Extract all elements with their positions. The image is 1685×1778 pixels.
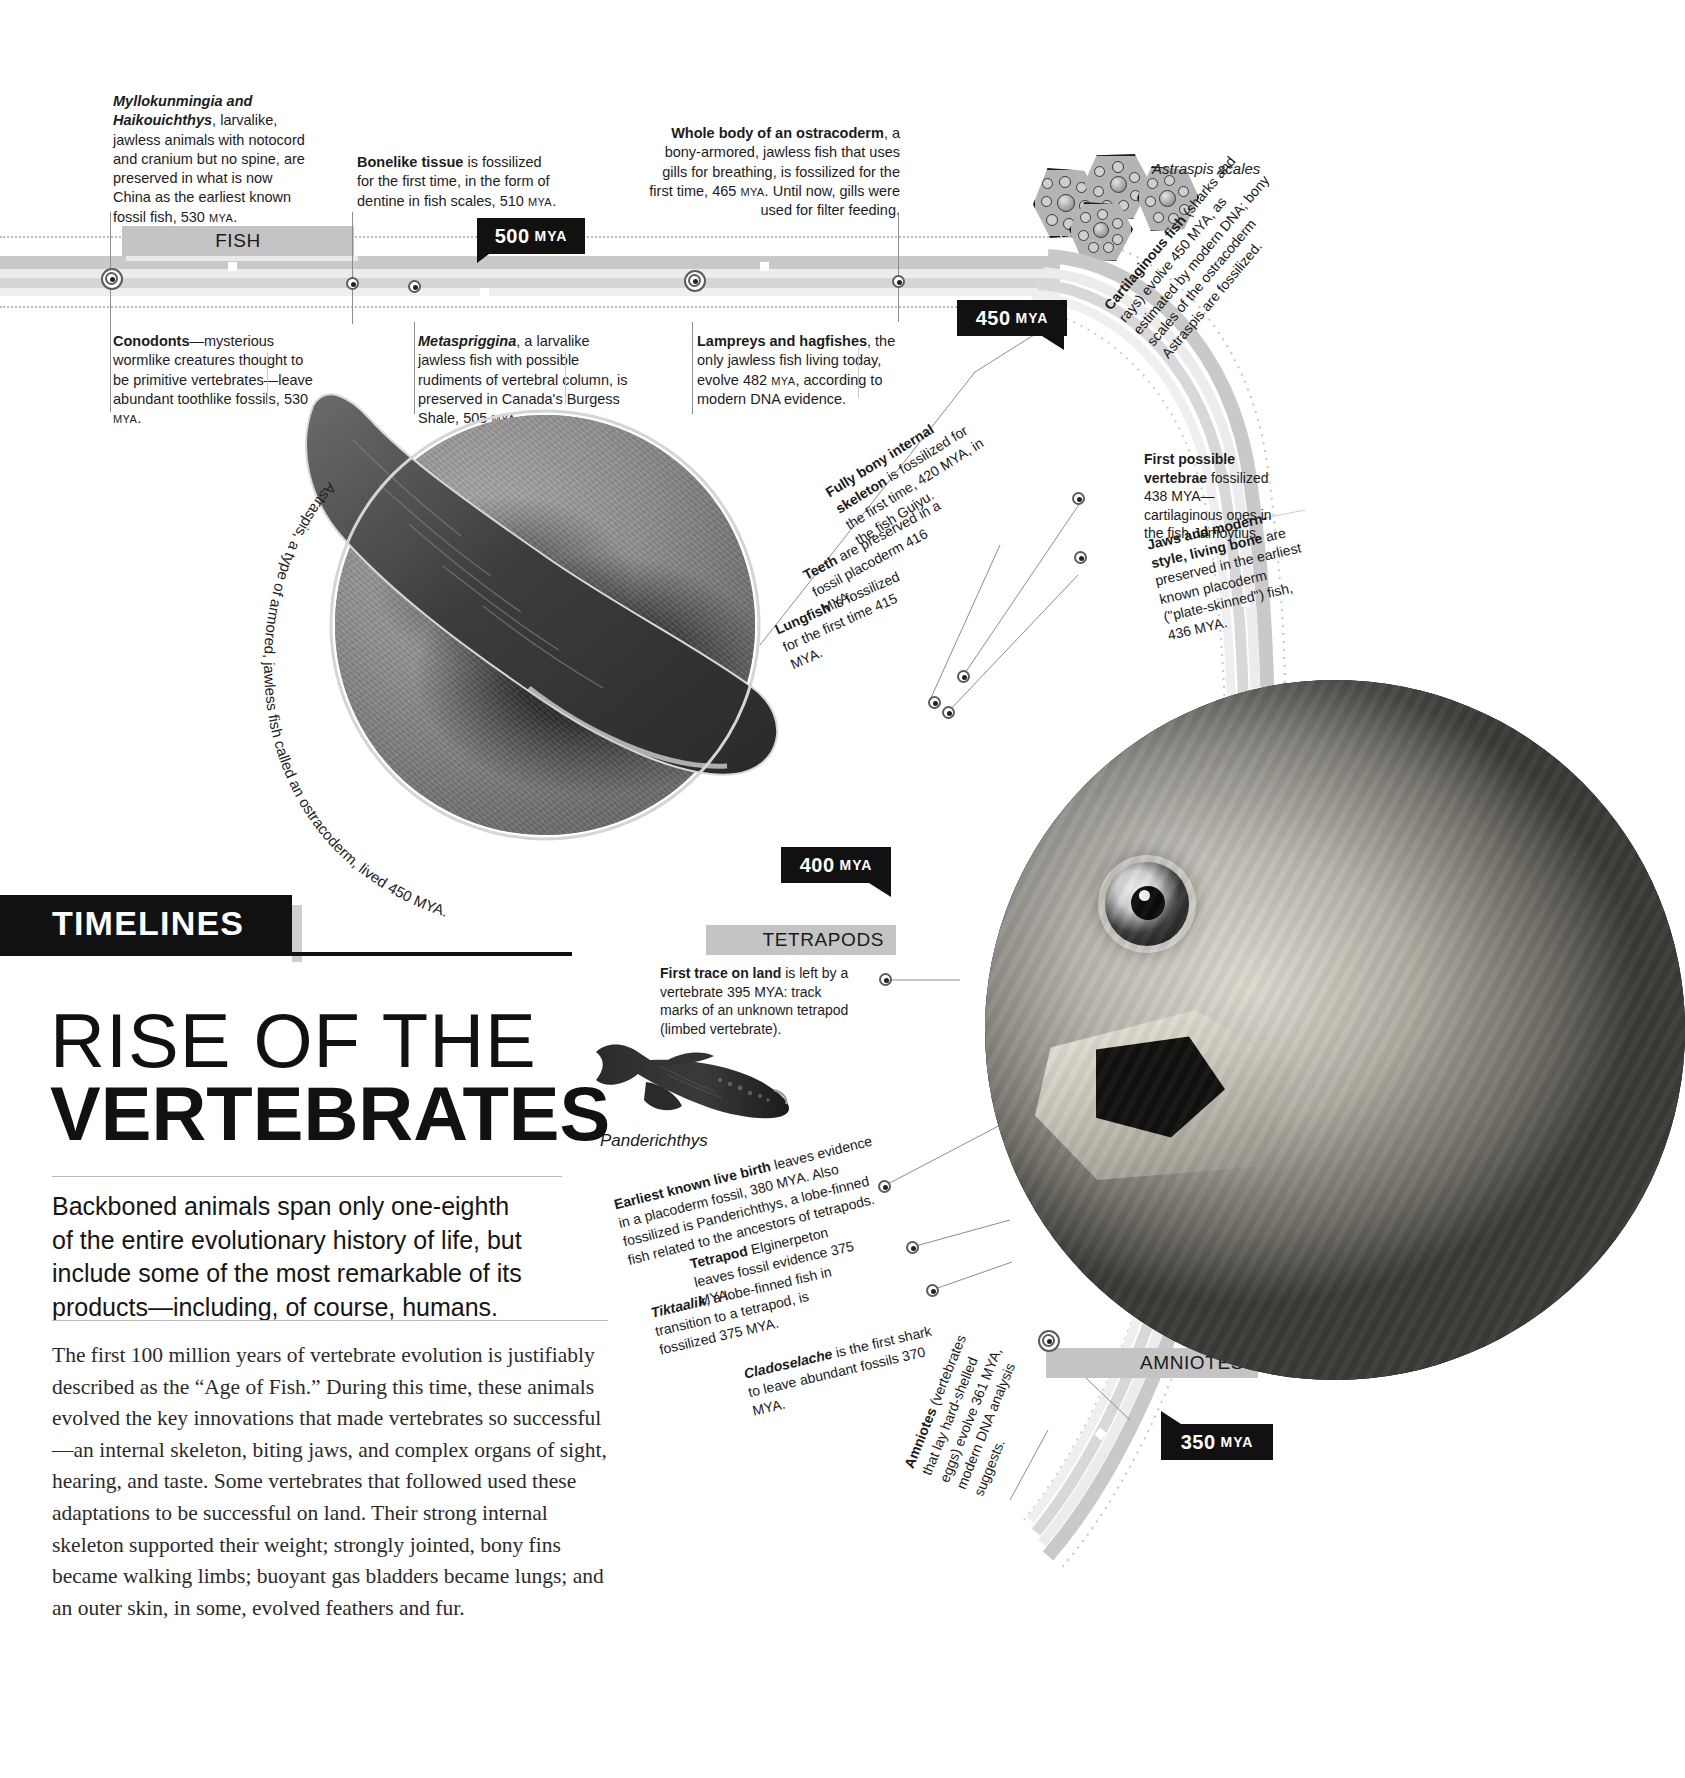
annotation-bonelike-unit: MYA [528,196,552,208]
marker-node [1072,492,1085,505]
leader-line [110,212,111,322]
marker-node [1074,551,1087,564]
marker-node [408,280,421,293]
caption-panderichthys: Panderichthys [600,1131,708,1151]
marker-node [879,973,892,986]
era-chip-tetrapods: TETRAPODS [706,925,896,955]
marker-unit-450: MYA [1016,310,1049,326]
band-tick [480,288,489,297]
annotation-myllokunmingia-tail: . [233,209,237,225]
annotation-conodonts-unit: MYA [113,413,137,425]
marker-value-450: 450 [976,307,1011,330]
era-chip-fish: FISH [122,226,354,256]
leader-line [267,352,268,404]
marker-value-400: 400 [800,854,835,877]
photo-astraspis-fossil [335,415,755,835]
annotation-conodonts: Conodonts—mysterious wormlike creatures … [113,332,323,428]
band-tick [228,262,237,271]
annotation-lampreys-hagfishes: Lampreys and hagfishes, the only jawless… [697,332,897,409]
masthead-rule [0,952,572,956]
annotation-bonelike-lead: Bonelike tissue [357,154,463,170]
leader-line [414,322,415,414]
marker-node [892,275,905,288]
annotation-myllokunmingia-unit: MYA [209,212,233,224]
annotation-ostracoderm-lead: Whole body of an ostracoderm [671,125,884,141]
annotation-cladoselache: Cladoselache is the first shark to leave… [742,1320,948,1419]
marker-node [906,1241,919,1254]
marker-unit-350: MYA [1221,1434,1254,1450]
annotation-ostracoderm-unit: MYA [740,186,764,198]
annotation-land-lead: First trace on land [660,965,781,981]
illustration-panderichthys [590,1030,810,1140]
marker-unit-400: MYA [840,857,873,873]
band-tick [760,262,769,271]
marker-node [346,277,359,290]
leader-line [692,322,693,414]
marker-node [928,696,941,709]
marker-flag-500: 500 MYA [477,218,585,254]
leader-line [352,212,353,324]
marker-node [878,1180,891,1193]
photo-fish-head [985,680,1685,1380]
annotation-lampreys-lead: Lampreys and hagfishes [697,333,867,349]
marker-node-inner [105,272,118,285]
body-copy: The first 100 million years of vertebrat… [52,1340,608,1624]
annotation-ostracoderm-body: Whole body of an ostracoderm, a bony-arm… [645,124,900,220]
timelines-kicker-tab: TIMELINES [0,895,292,952]
annotation-myllokunmingia: Myllokunmingia and Haikouichthys, larval… [113,92,313,227]
marker-node [957,670,970,683]
marker-flag-400: 400 MYA [781,847,891,883]
timelines-kicker-label: TIMELINES [52,904,244,943]
leader-line [898,212,899,322]
annotation-metaspriggina-lead: Metaspriggina [418,333,516,349]
marker-value-350: 350 [1181,1431,1216,1454]
page-title: RISE OF THE VERTEBRATES [50,1005,610,1151]
marker-value-500: 500 [495,225,530,248]
deck-divider [52,1320,608,1321]
annotation-conodonts-lead: Conodonts [113,333,190,349]
annotation-first-trace-on-land: First trace on land is left by a vertebr… [660,964,850,1038]
marker-flag-450: 450 MYA [957,300,1067,336]
leader-line [110,322,111,412]
annotation-myllokunmingia-rest: , larvalike, jawless animals with notoco… [113,112,305,224]
page-title-line2: VERTEBRATES [50,1078,610,1151]
annotation-bonelike-tissue: Bonelike tissue is fossilized for the fi… [357,153,557,211]
marker-node [926,1284,939,1297]
annotation-lampreys-unit: MYA [771,375,795,387]
deck-text: Backboned animals span only one-eighth o… [52,1190,522,1324]
marker-unit-500: MYA [535,228,568,244]
annotation-conodonts-tail: . [137,410,141,426]
leader-line [565,352,566,404]
annotation-metaspriggina: Metaspriggina, a larvalike jawless fish … [418,332,638,428]
annotation-bonelike-tail: . [552,193,556,209]
annotation-ostracoderm-tail: . Until now, gills were used for filter … [761,183,900,218]
era-label-fish: FISH [215,230,261,252]
timeline-dotted-lower [0,306,1020,308]
era-label-tetrapods: TETRAPODS [762,929,884,951]
marker-node [942,706,955,719]
panderichthys-dorsal-fin [668,1053,714,1064]
title-divider [52,1176,562,1177]
page-title-line1: RISE OF THE [50,1005,610,1078]
marker-node-inner [688,274,701,287]
leader-line [858,348,859,398]
marker-flag-350: 350 MYA [1161,1424,1273,1460]
